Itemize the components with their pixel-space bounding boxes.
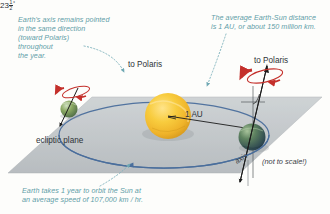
- label-ecliptic-plane: ecliptic plane: [36, 136, 83, 145]
- diagram-canvas: Earth's axis remains pointed in the same…: [0, 0, 330, 214]
- annotation-earth-sun-distance: The average Earth-Sun distance is 1 AU, …: [211, 13, 316, 31]
- label-distance-1au: 1 AU: [185, 110, 203, 119]
- annotation-axis-direction: Earth's axis remains pointed in the same…: [18, 15, 109, 60]
- tilt-denominator: 2: [10, 6, 13, 11]
- label-not-to-scale: (not to scale!): [262, 157, 307, 166]
- annotation-orbital-period-speed: Earth takes 1 year to orbit the Sun at a…: [22, 186, 143, 204]
- label-to-polaris-left: to Polaris: [128, 60, 162, 69]
- label-to-polaris-right: to Polaris: [254, 56, 288, 65]
- leader-line-au-note: [207, 34, 226, 86]
- degree-symbol: °: [13, 0, 15, 6]
